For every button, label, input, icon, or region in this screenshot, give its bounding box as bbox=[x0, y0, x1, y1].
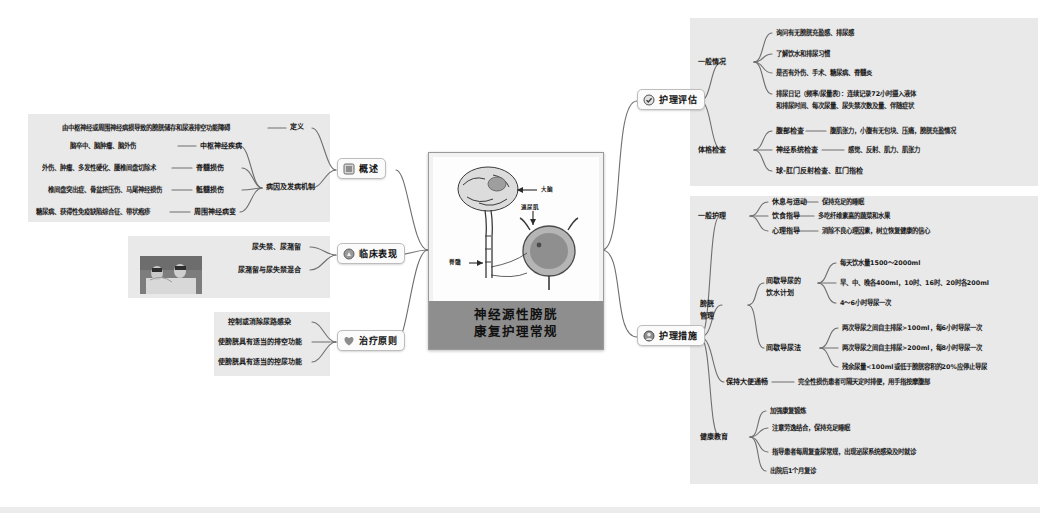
etiology-detail-0: 脑卒中、脑肿瘤、脑外伤 bbox=[70, 142, 136, 150]
branch-clinical-label: 临床表现 bbox=[359, 247, 397, 260]
branch-treatment-label: 治疗原则 bbox=[359, 334, 397, 347]
measures-group-1-label-line1: 膀胱 bbox=[700, 300, 714, 309]
label-spinal-cord: 脊髓 bbox=[449, 258, 461, 266]
center-title-line2: 康复护理常规 bbox=[429, 324, 603, 341]
assessment-group-1-label: 体格检查 bbox=[698, 146, 726, 155]
assessment-g0-item-1: 了解饮水和排尿习惯 bbox=[776, 50, 830, 58]
measures-sg1-item-0: 两次导尿之间自主排尿>100ml，每6小时导尿一次 bbox=[842, 324, 982, 332]
clinical-item-0: 尿失禁、尿潴留 bbox=[252, 243, 301, 252]
measures-subgroup-0-label-line1: 间歇导尿的 bbox=[766, 277, 801, 286]
overview-etiology-label: 病因及发病机制 bbox=[266, 183, 315, 192]
branch-clinical[interactable]: 临床表现 bbox=[337, 243, 405, 264]
measures-sg1-item-2: 残余尿量<100ml或低于膀胱容积的20%应停止导尿 bbox=[842, 363, 987, 371]
etiology-category-2: 骶髓损伤 bbox=[196, 186, 224, 195]
etiology-category-1: 脊髓损伤 bbox=[196, 164, 224, 173]
measures-g0-item-1: 饮食指导 bbox=[772, 212, 800, 221]
check-circle-icon bbox=[642, 93, 655, 106]
measures-group-0-label: 一般护理 bbox=[698, 212, 726, 221]
center-title: 神经源性膀胱 康复护理常规 bbox=[429, 301, 603, 349]
etiology-detail-2: 椎间盘突出症、骨盆挤压伤、马尾神经损伤 bbox=[48, 186, 162, 194]
measures-g0-item-0: 休息与运动 bbox=[772, 198, 807, 207]
measures-group-2-label: 保持大便通畅 bbox=[726, 378, 768, 387]
assessment-g1-item-0: 腹部检查 bbox=[776, 127, 804, 136]
overview-definition-label: 定义 bbox=[290, 123, 304, 132]
branch-overview[interactable]: 概述 bbox=[337, 158, 386, 179]
measures-sg0-item-0: 每天饮水量1500～2000ml bbox=[840, 259, 920, 267]
book-icon bbox=[342, 162, 355, 175]
treatment-item-1: 使膀胱具有适当的排空功能 bbox=[218, 338, 302, 347]
overview-definition-text: 由中枢神经或周围神经病损导致的膀胱储存和尿液排空功能障碍 bbox=[62, 124, 230, 132]
measures-group-2-detail: 完全性损伤患者可隔天定时排便，用手指按摩腹部 bbox=[798, 378, 930, 386]
measures-subgroup-1-label: 间歇导尿法 bbox=[766, 344, 801, 353]
heart-icon bbox=[342, 334, 355, 347]
microscope-icon bbox=[342, 247, 355, 260]
measures-subgroup-0-label-line2: 饮水计划 bbox=[766, 289, 794, 298]
measures-g0-item-2: 心理指导 bbox=[772, 227, 800, 236]
bottom-strip bbox=[0, 507, 1040, 513]
etiology-category-0: 中枢神经疾病 bbox=[200, 142, 242, 151]
measures-group-3-label: 健康教育 bbox=[700, 433, 728, 442]
branch-measures-label: 护理措施 bbox=[659, 329, 697, 342]
measures-sg1-item-1: 两次导尿之间自主排尿>200ml，每8小时导尿一次 bbox=[842, 344, 982, 352]
assessment-g1-item-2: 球-肛门反射检查、肛门指检 bbox=[776, 167, 863, 176]
assessment-group-0-label: 一般情况 bbox=[698, 58, 726, 67]
assessment-g1-item-1-detail: 感觉、反射、肌力、肌张力 bbox=[848, 146, 920, 154]
measures-g0-item-0-detail: 保持充足的睡眠 bbox=[822, 198, 864, 206]
assessment-g1-item-1: 神经系统检查 bbox=[776, 146, 818, 155]
measures-sg0-item-2: 4～6小时导尿一次 bbox=[840, 299, 891, 307]
assessment-g1-item-0-detail: 腹肌张力，小腹有无包块、压痛，膀胱充盈情况 bbox=[830, 127, 956, 135]
measures-g0-item-2-detail: 消除不良心理因素，树立恢复健康的信心 bbox=[822, 227, 930, 235]
treatment-item-2: 使膀胱具有适当的控尿功能 bbox=[218, 358, 302, 367]
branch-overview-label: 概述 bbox=[359, 162, 378, 175]
label-brain: 大脑 bbox=[541, 185, 553, 193]
branch-assessment[interactable]: 护理评估 bbox=[637, 89, 705, 110]
branch-measures[interactable]: 护理措施 bbox=[637, 325, 705, 346]
center-node[interactable]: 大脑 逼尿肌 脊髓 神经源性膀胱 康复护理常规 bbox=[428, 152, 604, 350]
assessment-g0-item-2: 是否有外伤、手术、糖尿病、脊髓炎 bbox=[776, 69, 872, 77]
etiology-detail-1: 外伤、肿瘤、多发性硬化、腰椎间盘切除术 bbox=[42, 164, 156, 172]
measures-g3-item-3: 出院后1个月复诊 bbox=[770, 467, 816, 475]
assessment-g0-item-3: 排尿日记（频率/尿量表）：连续记录72小时摄入液体 bbox=[776, 90, 916, 98]
label-detrusor: 逼尿肌 bbox=[521, 203, 539, 211]
measures-g3-item-0: 加强康复锻炼 bbox=[770, 407, 806, 415]
branch-assessment-label: 护理评估 bbox=[659, 93, 697, 106]
treatment-item-0: 控制或消除尿路感染 bbox=[228, 318, 291, 327]
etiology-detail-3: 糖尿病、获得性免疫缺陷综合征、带状疱疹 bbox=[36, 208, 150, 216]
anatomy-illustration: 大脑 逼尿肌 脊髓 bbox=[433, 157, 599, 301]
measures-sg0-item-1: 早、中、晚各400ml，10时、16时、20时各200ml bbox=[840, 279, 989, 287]
measures-g3-item-2: 指导患者每周复查尿常规，出现泌尿系统感染及时就诊 bbox=[772, 448, 916, 456]
measures-g0-item-1-detail: 多吃纤维素高的蔬菜和水果 bbox=[818, 212, 890, 220]
center-title-line1: 神经源性膀胱 bbox=[429, 307, 603, 324]
measures-g3-item-1: 注意劳逸结合，保持充足睡眠 bbox=[772, 424, 850, 432]
clinical-photo bbox=[140, 256, 202, 294]
clinical-item-1: 尿潴留与尿失禁混合 bbox=[238, 266, 301, 275]
branch-treatment[interactable]: 治疗原则 bbox=[337, 330, 405, 351]
nurse-icon bbox=[642, 329, 655, 342]
assessment-g0-item-0: 询问有无膀胱充盈感、排尿感 bbox=[776, 29, 854, 37]
etiology-category-3: 周围神经病变 bbox=[194, 208, 236, 217]
measures-group-1-label-line2: 管理 bbox=[700, 312, 714, 321]
assessment-g0-item-3-cont: 和排尿时间、每次尿量、尿失禁次数及量、伴随症状 bbox=[776, 102, 914, 110]
